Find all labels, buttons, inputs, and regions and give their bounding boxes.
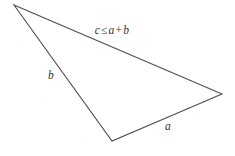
label-hypotenuse-inequality: c≤a+b <box>95 25 129 37</box>
label-relation-less-or-equal: ≤ <box>100 24 109 36</box>
label-side-b: b <box>48 70 54 82</box>
label-variable-a: a <box>109 24 115 36</box>
label-side-a: a <box>165 121 171 133</box>
label-variable-b: b <box>123 24 129 36</box>
triangle-inequality-figure: c≤a+b b a <box>0 0 235 156</box>
